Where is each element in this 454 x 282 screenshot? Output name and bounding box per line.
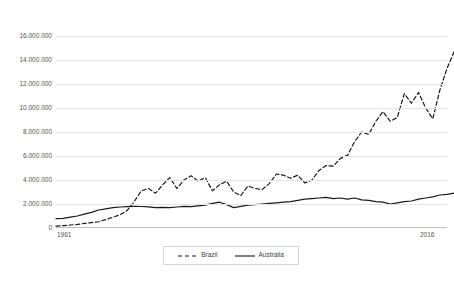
- x-axis-tick-end: 2016: [420, 232, 434, 239]
- gridline: [56, 84, 447, 85]
- solid-line-swatch: [235, 253, 255, 259]
- x-axis-tick-start: 1961: [57, 232, 71, 239]
- series-line-brazil: [56, 44, 454, 226]
- gridline: [56, 156, 447, 157]
- y-axis-tick-label: 6.000.000: [0, 153, 52, 160]
- y-axis-tick-label: 14.000.000: [0, 57, 52, 64]
- legend-item-brazil: Brazil: [178, 252, 217, 259]
- y-axis-tick-label: 0: [0, 225, 52, 232]
- gridline: [56, 180, 447, 181]
- y-axis-tick-label: 4.000.000: [0, 177, 52, 184]
- y-axis-tick-label: 12.000.000: [0, 81, 52, 88]
- y-axis-tick-label: 10.000.000: [0, 105, 52, 112]
- y-axis-tick-label: 2.000.000: [0, 201, 52, 208]
- legend-label-australia: Australia: [258, 252, 283, 259]
- legend-label-brazil: Brazil: [201, 252, 217, 259]
- chart-legend: Brazil Australia: [163, 246, 299, 265]
- gridline: [56, 204, 447, 205]
- gridline: [56, 60, 447, 61]
- series-line-australia: [56, 193, 454, 218]
- gridline: [56, 132, 447, 133]
- y-axis-tick-label: 8.000.000: [0, 129, 52, 136]
- line-chart: 02.000.0004.000.0006.000.0008.000.00010.…: [0, 0, 454, 282]
- legend-item-australia: Australia: [235, 252, 283, 259]
- y-axis-labels: 02.000.0004.000.0006.000.0008.000.00010.…: [0, 0, 52, 282]
- y-axis-tick-label: 16.000.000: [0, 33, 52, 40]
- gridline: [56, 108, 447, 109]
- plot-area: [56, 36, 447, 228]
- dashed-line-swatch: [178, 253, 198, 259]
- x-axis-line: [56, 227, 447, 228]
- gridline: [56, 36, 447, 37]
